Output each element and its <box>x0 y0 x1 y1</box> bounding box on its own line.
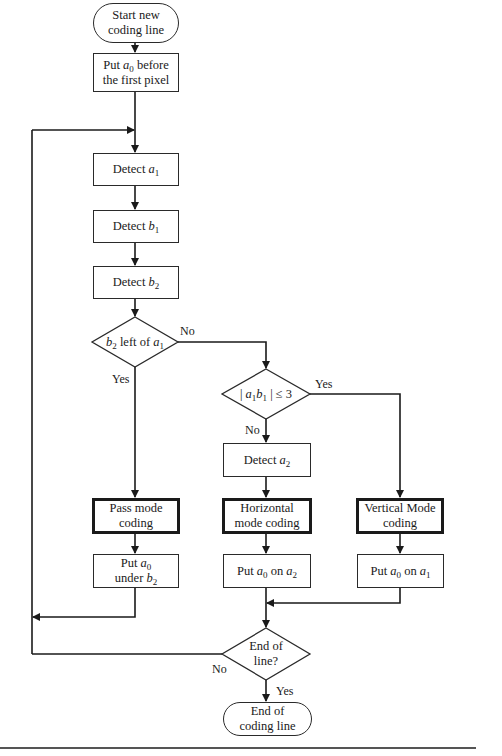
vertical-mode-coding-box: Vertical Mode coding <box>356 498 444 534</box>
detect-a1-box: Detect a1 <box>93 153 179 186</box>
detect-b2-box: Detect b2 <box>93 266 179 299</box>
start-terminator: Start new coding line <box>93 3 179 43</box>
end-terminator: End of coding line <box>223 702 312 736</box>
decision-end-of-line: End of line? <box>222 638 310 670</box>
decision-b2-left-of-a1: b2 left of a1 <box>92 330 178 354</box>
horizontal-mode-coding-box: Horizontal mode coding <box>222 498 312 534</box>
put-a0-on-a1-box: Put a0 on a1 <box>357 554 444 588</box>
detect-a2-box: Detect a2 <box>223 443 311 477</box>
put-a0-line2: the first pixel <box>103 73 170 88</box>
d2-no-label: No <box>245 423 260 437</box>
d2-yes-label: Yes <box>315 377 332 391</box>
d3-no-label: No <box>212 662 227 676</box>
put-a0-on-a2-box: Put a0 on a2 <box>223 554 311 588</box>
start-line2: coding line <box>108 23 164 38</box>
d1-yes-label: Yes <box>112 372 129 386</box>
decision-a1b1-le-3: | a1b1 | ≤ 3 <box>222 382 310 406</box>
detect-b1-box: Detect b1 <box>93 210 179 243</box>
start-line1: Start new <box>108 8 164 23</box>
d3-yes-label: Yes <box>276 684 293 698</box>
pass-mode-coding-box: Pass mode coding <box>92 498 180 534</box>
d1-no-label: No <box>180 324 195 338</box>
put-a0-under-b2-box: Put a0 under b2 <box>93 554 179 588</box>
bottom-rule-divider <box>0 747 476 749</box>
put-a0-before-first-pixel-box: Put a0 before the first pixel <box>93 53 179 92</box>
